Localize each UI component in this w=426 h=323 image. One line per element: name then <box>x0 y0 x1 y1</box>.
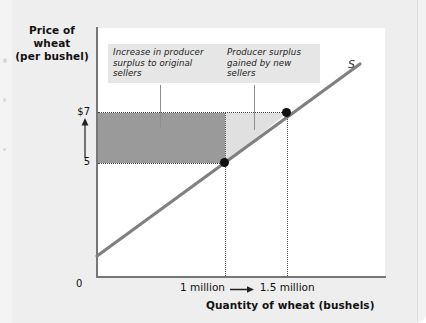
y-tick-label-7: $7 <box>62 106 90 117</box>
y-axis-title-line-2: wheat <box>14 37 90 50</box>
region-original-sellers-surplus <box>98 113 225 163</box>
quantity-1m-guideline <box>225 113 226 276</box>
price-7-guideline <box>98 112 288 113</box>
new-sellers-triangle-svg <box>225 113 287 163</box>
page-bleed-left <box>0 0 12 323</box>
page-artifact-dot <box>3 58 7 63</box>
x-axis-title: Quantity of wheat (bushels) <box>206 299 375 311</box>
region-new-sellers-surplus <box>225 113 287 163</box>
callout-leader-line-2 <box>254 85 255 130</box>
point-original-equilibrium <box>220 158 229 167</box>
y-axis-title: Price of wheat (per bushel) <box>14 24 90 63</box>
x-tick-label-1-million: 1 million <box>180 281 225 293</box>
y-axis-title-line-3: (per bushel) <box>14 50 90 63</box>
page-artifact-dot <box>3 148 6 151</box>
point-new-equilibrium <box>282 108 291 117</box>
callout-leader-line-1 <box>160 85 161 128</box>
origin-label: 0 <box>76 278 90 289</box>
x-tick-row: 1 million 1.5 million <box>180 281 315 293</box>
page-bleed-right <box>417 0 426 323</box>
y-axis-line <box>96 27 98 278</box>
callout-increase-original-sellers: Increase in producer surplus to original… <box>108 44 222 83</box>
quantity-15m-guideline <box>287 113 288 276</box>
x-axis-line <box>96 276 386 278</box>
quantity-increase-arrow-icon <box>230 284 254 293</box>
callout-gained-new-sellers: Producer surplus gained by new sellers <box>222 44 320 83</box>
price-5-guideline <box>98 163 226 164</box>
page-artifact-dot <box>3 98 6 102</box>
price-increase-arrow-icon <box>80 118 90 158</box>
supply-curve-label: S <box>348 58 355 71</box>
x-tick-label-1-5-million: 1.5 million <box>260 281 315 293</box>
y-axis-title-line-1: Price of <box>14 24 90 37</box>
figure-container: S Price of wheat (per bushel) $7 5 0 1 m… <box>0 0 426 323</box>
